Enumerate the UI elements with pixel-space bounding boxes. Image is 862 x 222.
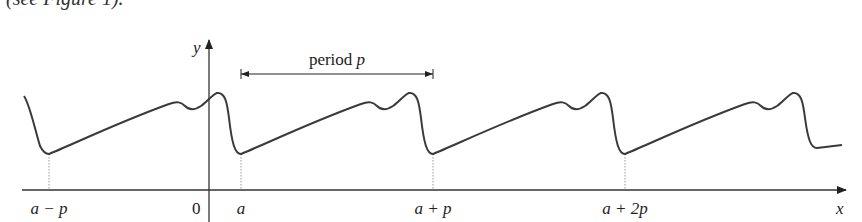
origin-label: 0 [192,199,201,218]
period-label-var: p [356,50,366,69]
x-axis-label: x [835,199,844,218]
period-label: period p [309,50,365,69]
period-annotation: period p [241,50,433,79]
y-axis-label: y [191,38,201,57]
period-label-word: period [309,50,357,69]
tick-label-a-plus-p: a + p [415,199,452,218]
tick-label-a-plus-2p: a + 2p [602,199,647,218]
tick-label-a-minus-p: a − p [31,199,68,218]
periodic-function-diagram: period p y x 0 a − p a a + p a + 2p [0,0,862,222]
guide-lines [49,154,625,190]
periodic-curve [24,93,842,154]
tick-label-a: a [237,199,246,218]
